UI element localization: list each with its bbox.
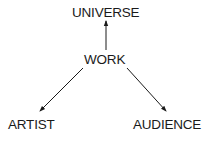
node-work: WORK — [84, 53, 125, 67]
arrow-work-to-artist — [40, 68, 83, 111]
node-universe: UNIVERSE — [72, 6, 139, 20]
node-audience: AUDIENCE — [133, 118, 201, 132]
node-artist: ARTIST — [8, 118, 55, 132]
arrow-work-to-audience — [127, 68, 166, 111]
